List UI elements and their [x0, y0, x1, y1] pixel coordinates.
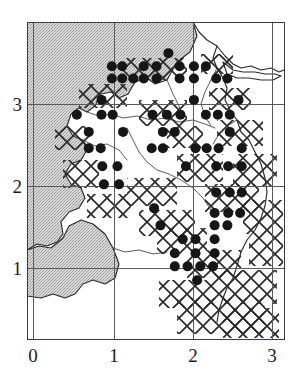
presence-dot	[118, 127, 128, 137]
presence-dot	[147, 143, 157, 153]
presence-dot	[222, 220, 232, 230]
presence-dot	[99, 179, 109, 189]
presence-dot	[225, 127, 235, 137]
presence-dot	[170, 127, 180, 137]
presence-dot	[84, 143, 94, 153]
presence-dot	[237, 161, 247, 171]
presence-dot	[210, 220, 220, 230]
presence-dot	[170, 248, 180, 258]
presence-dot	[117, 74, 127, 84]
presence-dot	[189, 61, 199, 71]
x-tick-label-2: 2	[182, 346, 204, 365]
presence-dot	[237, 143, 247, 153]
y-tick-label-3: 3	[4, 95, 22, 114]
presence-dot	[201, 110, 211, 120]
presence-dot	[189, 74, 199, 84]
presence-dot	[225, 188, 235, 198]
presence-dot	[222, 74, 232, 84]
presence-dot	[170, 261, 180, 271]
presence-dot	[223, 208, 233, 218]
presence-dot	[210, 234, 220, 244]
presence-dot	[211, 74, 221, 84]
x-tick-label-1: 1	[103, 346, 125, 365]
presence-dot	[97, 161, 107, 171]
presence-dot	[210, 208, 220, 218]
presence-dot	[112, 161, 122, 171]
x-tick-label-0: 0	[22, 346, 44, 365]
presence-dot	[163, 48, 173, 58]
presence-dot	[237, 188, 247, 198]
presence-dot	[117, 61, 127, 71]
presence-dot	[139, 61, 149, 71]
presence-dot	[107, 74, 117, 84]
distribution-map-figure: 0 1 2 3 3 2 1	[0, 0, 297, 382]
presence-dot	[211, 188, 221, 198]
map-canvas	[27, 22, 285, 340]
presence-dot	[162, 110, 172, 120]
presence-dot	[225, 110, 235, 120]
presence-dot	[195, 261, 205, 271]
presence-dot	[149, 203, 159, 213]
presence-dot	[213, 110, 223, 120]
presence-dot	[96, 143, 106, 153]
presence-dot	[181, 161, 191, 171]
y-tick-label-1: 1	[4, 259, 22, 278]
presence-dot	[191, 234, 201, 244]
presence-dot	[208, 261, 218, 271]
presence-dot	[155, 220, 165, 230]
presence-dot	[151, 61, 161, 71]
map-plot-area	[27, 22, 285, 340]
presence-dot	[202, 143, 212, 153]
x-tick-label-3: 3	[261, 346, 283, 365]
presence-dot	[84, 127, 94, 137]
presence-dot	[201, 61, 211, 71]
presence-dot	[214, 143, 224, 153]
presence-dot	[97, 95, 107, 105]
presence-dot	[191, 143, 201, 153]
presence-dot	[234, 95, 244, 105]
y-tick-label-2: 2	[4, 177, 22, 196]
presence-dot	[128, 74, 138, 84]
presence-dot	[114, 179, 124, 189]
presence-dot	[175, 74, 185, 84]
presence-dot	[175, 110, 185, 120]
presence-dot	[151, 74, 161, 84]
presence-dot	[183, 261, 193, 271]
presence-dot	[235, 208, 245, 218]
presence-dot	[72, 110, 82, 120]
presence-dot	[223, 161, 233, 171]
presence-dot	[158, 127, 168, 137]
presence-dot	[107, 61, 117, 71]
presence-dot	[108, 110, 118, 120]
presence-dot	[211, 161, 221, 171]
presence-dot	[97, 110, 107, 120]
presence-dot	[158, 143, 168, 153]
presence-dot	[192, 275, 202, 285]
presence-dot	[148, 110, 158, 120]
presence-dot	[210, 248, 220, 258]
presence-dot	[191, 248, 201, 258]
presence-dot	[178, 234, 188, 244]
presence-dot	[175, 61, 185, 71]
presence-dot	[189, 95, 199, 105]
presence-dot	[139, 74, 149, 84]
